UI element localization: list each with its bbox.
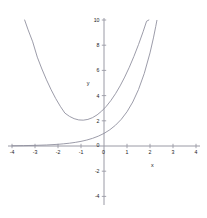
x-tick-label: -3 [33, 149, 38, 155]
y-tick-label: 2 [97, 118, 100, 124]
x-tick-label: -1 [79, 149, 84, 155]
curves-group [12, 20, 157, 146]
x-axis-label: x [151, 162, 154, 168]
y-tick-label: 8 [97, 42, 100, 48]
coordinate-plot: -4-3-2-101234 1086420-2-4 x y [0, 0, 207, 218]
y-tick-label: 6 [97, 67, 100, 73]
x-tick-label: -2 [56, 149, 61, 155]
x-tick-label: 3 [172, 149, 175, 155]
y-axis-label: y [87, 80, 90, 86]
x-tick-label: 4 [195, 149, 198, 155]
y-tick-label: -2 [95, 168, 100, 174]
x-tick-label: 1 [126, 149, 129, 155]
x-tick-label: 0 [102, 149, 105, 155]
curve-parabola [25, 20, 149, 120]
y-tick-label: -4 [95, 193, 100, 199]
x-tick-label: 2 [149, 149, 152, 155]
y-tick-label: 4 [97, 93, 100, 99]
x-tick-label: -4 [10, 149, 15, 155]
curve-exponential [12, 20, 157, 145]
y-tick-label: 10 [94, 17, 100, 23]
plot-container: -4-3-2-101234 1086420-2-4 x y [0, 0, 207, 218]
axes-group [8, 18, 200, 205]
y-tick-label: 0 [97, 142, 100, 148]
